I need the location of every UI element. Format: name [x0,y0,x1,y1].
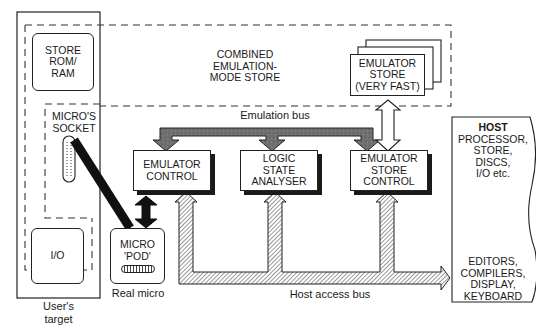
store-rom-ram-box: STORE ROM/ RAM [32,33,94,91]
pod-cable [74,140,130,228]
esc-line3: CONTROL [360,176,417,188]
host-lower-line1: EDITORS, [452,256,534,268]
emulator-control-line1: EMULATOR [143,159,200,171]
emulator-control-line2: CONTROL [143,171,200,183]
users-target-caption: User's target [17,300,100,326]
store-link-arrow [376,100,400,151]
combined-store-line1: COMBINED [190,49,300,61]
store-rom-ram-line3: RAM [45,68,81,80]
micros-socket-label: MICRO'S SOCKET [48,111,100,134]
users-target-caption-line1: User's [17,300,100,313]
pod-chip-icon [121,265,155,273]
host-title: HOST [452,122,534,134]
combined-store-label: COMBINED EMULATION- MODE STORE [190,49,300,84]
micro-pod-caption: Real micro [104,288,172,300]
emulator-control-box: EMULATOR CONTROL [133,150,211,191]
micro-pod-box: MICRO 'POD' [110,228,165,284]
micro-pod-line2: 'POD' [120,251,155,263]
users-target-caption-line2: target [17,313,100,326]
emulation-bus [153,128,380,151]
emulator-store-line3: (VERY FAST) [355,81,419,93]
micros-socket-line2: SOCKET [48,123,100,135]
host-upper-text: HOST PROCESSOR, STORE, DISCS, I/O etc. [452,122,534,180]
host-access-bus-label: Host access bus [280,289,380,301]
emulator-store-control-box: EMULATOR STORE CONTROL [350,150,428,191]
emulation-bus-label: Emulation bus [225,110,325,122]
host-lower-line3: DISPLAY, [452,279,534,291]
host-upper-line4: I/O etc. [452,168,534,180]
host-lower-line4: KEYBOARD [452,291,534,303]
pod-control-arrow [135,196,157,228]
io-box: I/O [31,228,84,284]
host-upper-line2: STORE, [452,145,534,157]
io-label: I/O [50,250,64,262]
emulator-store-box: EMULATOR STORE (VERY FAST) [350,54,425,96]
micro-pod-line1: MICRO [120,239,155,251]
micros-socket-line1: MICRO'S [48,111,100,123]
lsa-line3: ANALYSER [251,176,306,188]
logic-state-analyser-box: LOGIC STATE ANALYSER [240,150,318,191]
combined-store-line3: MODE STORE [190,72,300,84]
host-lower-text: EDITORS, COMPILERS, DISPLAY, KEYBOARD [452,256,534,302]
host-access-bus [175,192,450,290]
